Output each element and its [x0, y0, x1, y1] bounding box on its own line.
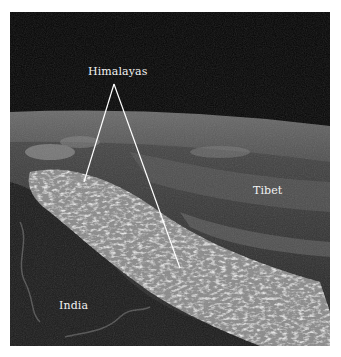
photo-scene	[10, 12, 330, 346]
himalayas-label: Himalayas	[88, 65, 148, 78]
india-label: India	[59, 299, 88, 312]
earth-photo	[10, 12, 330, 346]
tibet-label: Tibet	[253, 184, 282, 197]
